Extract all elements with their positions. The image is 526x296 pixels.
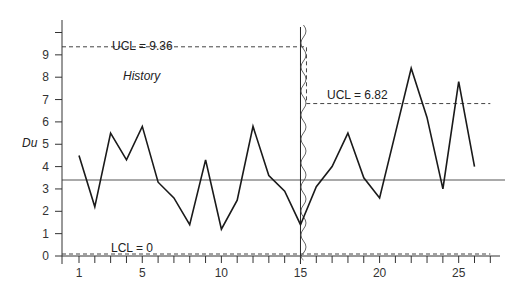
y-tick-label: 1 xyxy=(42,227,49,241)
annotations: Du History UCL = 9.36 UCL = 6.82 LCL = 0 xyxy=(22,39,388,255)
lcl-label: LCL = 0 xyxy=(111,241,153,255)
history-label: History xyxy=(123,69,161,83)
series-line-du xyxy=(79,68,475,229)
y-tick-label: 3 xyxy=(42,182,49,196)
data-series xyxy=(79,68,475,229)
y-tick-label: 5 xyxy=(42,137,49,151)
y-tick-label: 0 xyxy=(42,249,49,263)
y-tick-label: 8 xyxy=(42,70,49,84)
control-chart: 01234567891510152025 Du History UCL = 9.… xyxy=(0,0,526,296)
x-tick-label: 10 xyxy=(215,266,229,280)
x-tick-label: 20 xyxy=(373,266,387,280)
x-tick-label: 25 xyxy=(452,266,466,280)
y-tick-label: 4 xyxy=(42,160,49,174)
y-tick-label: 7 xyxy=(42,93,49,107)
y-axis-label: Du xyxy=(22,136,38,150)
chart-canvas: 01234567891510152025 Du History UCL = 9.… xyxy=(0,0,526,296)
phase-split-line xyxy=(300,25,306,264)
x-tick-label: 15 xyxy=(294,266,308,280)
y-tick-label: 6 xyxy=(42,115,49,129)
y-tick-label: 2 xyxy=(42,204,49,218)
x-tick-label: 1 xyxy=(76,266,83,280)
phase-break-wave xyxy=(301,25,306,260)
x-tick-label: 5 xyxy=(139,266,146,280)
ucl-history-label: UCL = 9.36 xyxy=(112,39,173,53)
y-tick-label: 9 xyxy=(42,48,49,62)
ucl-current-label: UCL = 6.82 xyxy=(327,88,388,102)
